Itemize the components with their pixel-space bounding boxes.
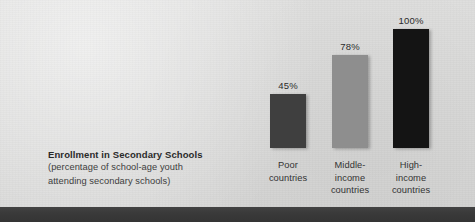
bar-category-label-poor-countries: Poor countries <box>258 159 318 184</box>
bar-category-label-line-2: income <box>320 172 380 185</box>
bar-category-label-middle-income-countries: Middle- income countries <box>320 159 380 197</box>
chart-title: Enrollment in Secondary Schools <box>48 148 248 161</box>
bar-value-label-poor-countries: 45% <box>258 80 318 91</box>
bar-category-label-line-1: Middle- <box>320 159 380 172</box>
bar-category-label-line-1: Poor <box>258 159 318 172</box>
footer-strip <box>0 207 475 222</box>
bar-high-income-countries <box>393 29 429 148</box>
bar-group-poor-countries: 45% Poor countries <box>258 80 318 148</box>
plot-area: 45% Poor countries 78% Middle- income co… <box>250 0 475 207</box>
bar-middle-income-countries <box>332 55 368 148</box>
bar-category-label-line-2: countries <box>258 172 318 185</box>
bar-value-label-high-income-countries: 100% <box>381 15 441 26</box>
bar-value-label-middle-income-countries: 78% <box>320 41 380 52</box>
bar-group-high-income-countries: 100% High- income countries <box>381 15 441 148</box>
bar-category-label-high-income-countries: High- income countries <box>381 159 441 197</box>
bar-group-middle-income-countries: 78% Middle- income countries <box>320 41 380 148</box>
bar-chart-figure: Enrollment in Secondary Schools (percent… <box>0 0 475 222</box>
bar-category-label-line-1: High- <box>381 159 441 172</box>
chart-caption-block: Enrollment in Secondary Schools (percent… <box>48 148 248 188</box>
chart-subtitle-line-2: attending secondary schools) <box>48 175 248 189</box>
bar-category-label-line-3: countries <box>381 184 441 197</box>
bar-poor-countries <box>270 94 306 148</box>
bar-category-label-line-3: countries <box>320 184 380 197</box>
chart-subtitle-line-1: (percentage of school-age youth <box>48 161 248 175</box>
bar-category-label-line-2: income <box>381 172 441 185</box>
